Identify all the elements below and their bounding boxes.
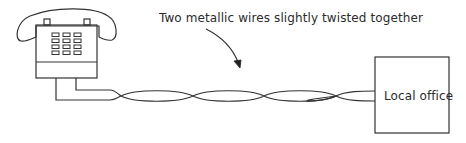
keypad-icon <box>52 33 81 55</box>
telephone-icon <box>17 9 116 78</box>
local-office-label: Local office <box>384 89 453 103</box>
wires-caption: Two metallic wires slightly twisted toge… <box>159 11 423 25</box>
twisted-pair-wires <box>56 78 375 101</box>
caption-arrow <box>206 29 241 68</box>
